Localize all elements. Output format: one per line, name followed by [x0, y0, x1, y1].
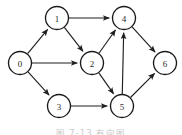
graph-edge-5-to-6: [130, 73, 154, 97]
graph-node-6: 6: [154, 52, 177, 75]
graph-edge-0-to-3: [28, 72, 49, 95]
graph-node-2: 2: [81, 52, 104, 75]
graph-edge-2-to-4: [99, 30, 116, 53]
graph-node-label-3: 3: [57, 102, 62, 112]
graph-node-label-0: 0: [18, 59, 23, 69]
graph-node-label-6: 6: [163, 59, 168, 69]
graph-node-label-4: 4: [122, 14, 127, 24]
graph-node-4: 4: [113, 7, 136, 30]
graph-node-1: 1: [46, 7, 69, 30]
graph-node-label-5: 5: [120, 102, 125, 112]
graph-edge-5-to-4: [122, 33, 123, 94]
graph-node-label-1: 1: [55, 14, 60, 24]
graph-node-0: 0: [9, 52, 32, 75]
graph-edge-4-to-6: [132, 27, 155, 52]
graph-edge-2-to-5: [99, 73, 114, 94]
graph-edge-0-to-1: [28, 29, 48, 53]
directed-graph-diagram: 0123456: [0, 0, 182, 135]
graph-nodes-layer: 0123456: [9, 7, 177, 118]
graph-node-label-2: 2: [90, 59, 95, 69]
graph-node-5: 5: [111, 95, 134, 118]
figure-caption: 图 7-13 有向图: [0, 127, 182, 135]
graph-node-3: 3: [48, 95, 71, 118]
graph-edge-1-to-2: [64, 27, 83, 51]
figure-container: 0123456 图 7-13 有向图: [0, 0, 182, 135]
